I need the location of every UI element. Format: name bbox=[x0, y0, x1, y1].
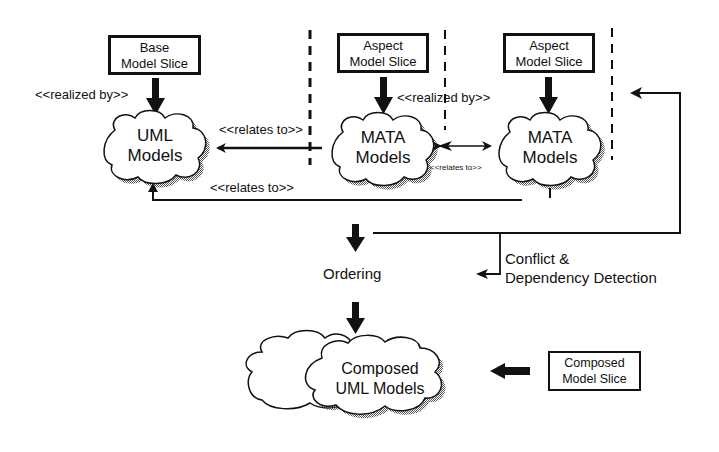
realized-arrow-aspect2 bbox=[539, 77, 558, 114]
cloud-label-line2: Models bbox=[115, 146, 195, 166]
box-label-line2: Model Slice bbox=[506, 54, 592, 70]
composed-uml-models-label: Composed UML Models bbox=[325, 359, 435, 399]
box-label-line1: Aspect bbox=[340, 38, 426, 54]
base-model-slice-box: Base Model Slice bbox=[108, 35, 201, 75]
box-label-line1: Composed bbox=[550, 355, 639, 371]
realized-arrow-aspect1 bbox=[374, 77, 393, 114]
cloud-label-line1: MATA bbox=[510, 128, 590, 148]
aspect-model-slice-box-2: Aspect Model Slice bbox=[503, 33, 595, 73]
cloud-label-line1: MATA bbox=[343, 128, 423, 148]
box-label-line2: Model Slice bbox=[111, 56, 198, 72]
conflict-branch bbox=[480, 233, 500, 274]
realized-by-label-mid: <<realized by>> bbox=[397, 91, 490, 105]
box-label-line1: Aspect bbox=[506, 38, 592, 54]
uml-models-label: UML Models bbox=[115, 126, 195, 166]
box-label-line2: Model Slice bbox=[550, 371, 639, 387]
aspect-model-slice-box-1: Aspect Model Slice bbox=[337, 33, 429, 73]
cloud-label-line2: Models bbox=[510, 148, 590, 168]
cloud-label-line1: Composed bbox=[325, 359, 435, 379]
relates-to-label-upper: <<relates to>> bbox=[219, 123, 303, 137]
ordering-label: Ordering bbox=[323, 266, 381, 283]
relates-to-label-lower: <<relates to>> bbox=[210, 181, 294, 195]
realized-arrow-base bbox=[146, 78, 165, 115]
conflict-label-line1: Conflict & bbox=[505, 249, 657, 268]
cloud-label-line2: Models bbox=[343, 148, 423, 168]
box-label-line2: Model Slice bbox=[340, 54, 426, 70]
composed-model-slice-box: Composed Model Slice bbox=[548, 351, 641, 391]
relates-arrow-lower bbox=[153, 190, 522, 200]
composed-slice-arrow bbox=[490, 363, 530, 379]
mata-models-label-1: MATA Models bbox=[343, 128, 423, 168]
conflict-label-line2: Dependency Detection bbox=[505, 268, 657, 287]
mata-models-label-2: MATA Models bbox=[510, 128, 590, 168]
cloud-label-line1: UML bbox=[115, 126, 195, 146]
ordering-arrow-out bbox=[346, 302, 365, 334]
relates-to-label-small: <<relates to>> bbox=[430, 164, 482, 173]
conflict-detection-label: Conflict & Dependency Detection bbox=[505, 249, 657, 287]
realized-by-label-left: <<realized by>> bbox=[35, 88, 128, 102]
ordering-arrow-in bbox=[346, 224, 365, 252]
cloud-label-line2: UML Models bbox=[325, 379, 435, 399]
box-label-line1: Base bbox=[111, 40, 198, 56]
